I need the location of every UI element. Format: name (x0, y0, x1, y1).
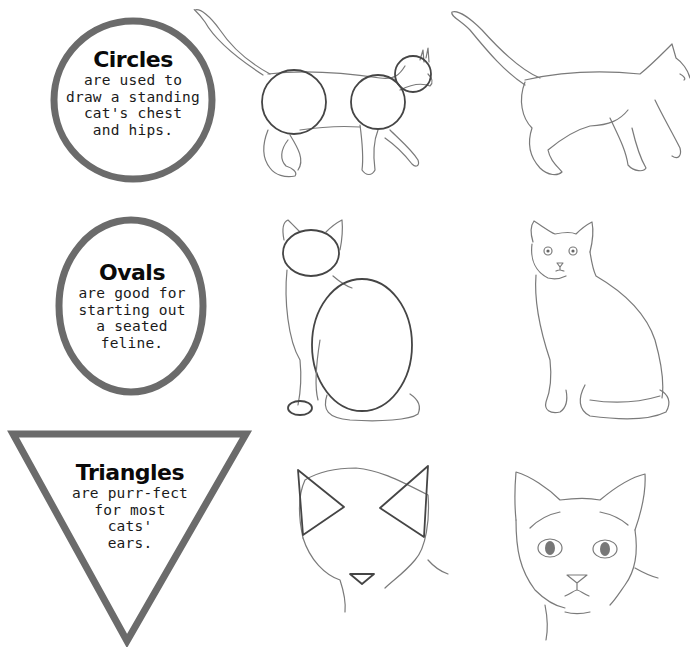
circles-title: Circles (58, 48, 208, 72)
circles-description: are used to draw a standing cat's chest … (58, 72, 208, 138)
ovals-label: Ovals are good for starting out a seated… (62, 261, 202, 351)
seated-cat-guide-drawing (283, 220, 419, 421)
circles-label: Circles are used to draw a standing cat'… (58, 48, 208, 138)
triangles-title: Triangles (55, 461, 205, 485)
standing-cat-finished-drawing (452, 12, 690, 175)
standing-cat-guide-drawing (194, 10, 432, 177)
ovals-description: are good for starting out a seated felin… (62, 285, 202, 351)
cat-head-finished-drawing (515, 472, 658, 640)
ovals-title: Ovals (62, 261, 202, 285)
cat-drawing-guide: Circles are used to draw a standing cat'… (0, 0, 690, 647)
seated-cat-finished-drawing (531, 221, 669, 419)
triangles-description: are purr-fect for most cats' ears. (55, 485, 205, 551)
cat-head-guide-drawing (298, 466, 448, 612)
triangles-label: Triangles are purr-fect for most cats' e… (55, 461, 205, 551)
